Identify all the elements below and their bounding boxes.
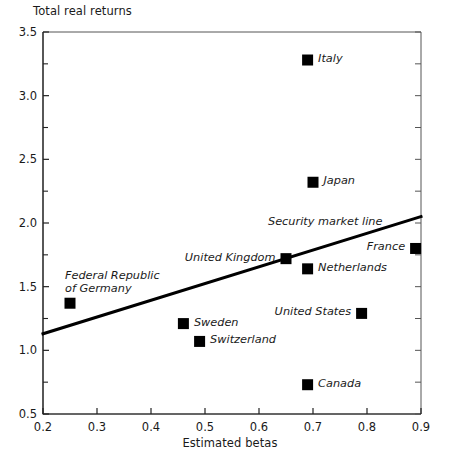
x-tick-label: 0.4 <box>134 420 168 434</box>
x-tick-label: 0.9 <box>404 420 438 434</box>
y-axis-title: Total real returns <box>33 4 132 18</box>
data-point-label: France <box>367 241 405 254</box>
security-market-line-label: Security market line <box>268 216 382 229</box>
data-point-marker <box>302 55 313 66</box>
data-point-marker <box>308 177 319 188</box>
data-point-marker <box>65 298 76 309</box>
x-tick-label: 0.8 <box>350 420 384 434</box>
data-point-marker <box>302 263 313 274</box>
data-point-label: Japan <box>324 175 356 188</box>
x-tick-label: 0.6 <box>242 420 276 434</box>
x-tick-label: 0.5 <box>188 420 222 434</box>
data-point-label: United States <box>275 306 352 319</box>
data-point-label: Switzerland <box>210 334 276 347</box>
y-tick-label: 1.0 <box>7 343 37 357</box>
data-point-label: Sweden <box>194 317 239 330</box>
y-tick-label: 1.5 <box>7 280 37 294</box>
data-point-marker <box>356 308 367 319</box>
data-point-marker <box>302 379 313 390</box>
data-point-marker <box>194 336 205 347</box>
y-tick-label: 3.0 <box>7 89 37 103</box>
y-tick-label: 0.5 <box>7 407 37 421</box>
x-tick-label: 0.7 <box>296 420 330 434</box>
data-point-label: Canada <box>318 378 361 391</box>
data-point-label: Netherlands <box>318 262 387 275</box>
data-point-marker <box>178 318 189 329</box>
scatter-chart: Total real returns Estimated betas Secur… <box>0 0 460 459</box>
data-point-label: Federal Republicof Germany <box>65 270 160 295</box>
data-point-marker <box>281 253 292 264</box>
y-tick-label: 2.5 <box>7 152 37 166</box>
data-point-marker <box>410 243 421 254</box>
x-axis-title: Estimated betas <box>0 436 460 450</box>
y-tick-label: 2.0 <box>7 216 37 230</box>
y-tick-label: 3.5 <box>7 25 37 39</box>
x-tick-label: 0.3 <box>80 420 114 434</box>
data-point-label: Italy <box>318 53 343 66</box>
x-tick-label: 0.2 <box>26 420 60 434</box>
plot-area <box>0 0 460 459</box>
data-point-label: United Kingdom <box>185 252 276 265</box>
